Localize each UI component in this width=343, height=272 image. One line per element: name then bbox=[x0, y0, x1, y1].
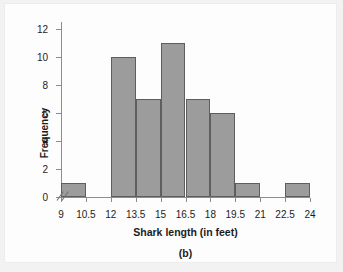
x-tick-label: 16.5 bbox=[176, 209, 195, 220]
y-tick-label: 6 bbox=[42, 108, 48, 119]
histogram-bar bbox=[210, 113, 235, 197]
histogram-bar bbox=[285, 183, 310, 197]
y-tick: 6 bbox=[56, 113, 61, 114]
y-tick: 12 bbox=[56, 29, 61, 30]
x-tick: 21 bbox=[260, 198, 261, 202]
x-tick: 22.5 bbox=[285, 198, 286, 202]
histogram-bar bbox=[186, 99, 211, 197]
histogram-bar bbox=[235, 183, 260, 197]
x-tick: 18 bbox=[210, 198, 211, 202]
x-tick-label: 10.5 bbox=[76, 209, 95, 220]
y-tick: 4 bbox=[56, 141, 61, 142]
x-tick-label: 19.5 bbox=[226, 209, 245, 220]
figure-caption: (b) bbox=[61, 247, 310, 259]
histogram-bar bbox=[161, 43, 186, 197]
x-tick-label: 24 bbox=[304, 209, 315, 220]
x-tick-label: 18 bbox=[205, 209, 216, 220]
y-tick-label: 12 bbox=[37, 24, 48, 35]
y-tick: 10 bbox=[56, 57, 61, 58]
x-tick-label: 22.5 bbox=[275, 209, 294, 220]
x-tick: 19.5 bbox=[235, 198, 236, 202]
x-tick-label: 9 bbox=[58, 209, 64, 220]
y-axis-line bbox=[61, 22, 62, 198]
y-tick-label: 10 bbox=[37, 52, 48, 63]
x-tick: 10.5 bbox=[86, 198, 87, 202]
figure-root: Frequency 024681012 910.51213.51516.5181… bbox=[0, 0, 343, 272]
plot-inner: 024681012 910.51213.51516.51819.52122.52… bbox=[61, 22, 310, 198]
y-tick: 2 bbox=[56, 169, 61, 170]
y-tick-label: 2 bbox=[42, 164, 48, 175]
y-tick-label: 0 bbox=[42, 192, 48, 203]
x-tick-label: 15 bbox=[155, 209, 166, 220]
y-tick-label: 4 bbox=[42, 136, 48, 147]
x-tick: 15 bbox=[161, 198, 162, 202]
figure-card: Frequency 024681012 910.51213.51516.5181… bbox=[5, 4, 336, 262]
x-tick: 16.5 bbox=[186, 198, 187, 202]
histogram-bar bbox=[136, 99, 161, 197]
x-tick: 24 bbox=[310, 198, 311, 202]
x-tick-label: 21 bbox=[255, 209, 266, 220]
x-tick-label: 12 bbox=[105, 209, 116, 220]
plot-area: 024681012 910.51213.51516.51819.52122.52… bbox=[61, 22, 310, 198]
axis-break-icon bbox=[55, 189, 73, 205]
x-tick: 12 bbox=[111, 198, 112, 202]
x-tick: 13.5 bbox=[136, 198, 137, 202]
x-tick-label: 13.5 bbox=[126, 209, 145, 220]
y-tick: 8 bbox=[56, 85, 61, 86]
histogram-bar bbox=[111, 57, 136, 197]
x-axis-title: Shark length (in feet) bbox=[61, 226, 310, 238]
y-tick-label: 8 bbox=[42, 80, 48, 91]
